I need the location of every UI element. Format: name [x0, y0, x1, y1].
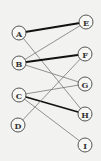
- node-c: C: [12, 88, 26, 102]
- node-label: E: [83, 18, 89, 28]
- node-f: F: [78, 47, 92, 61]
- node-label: H: [81, 110, 89, 120]
- edge-a-e: [19, 22, 86, 33]
- node-g: G: [78, 77, 92, 91]
- edge-b-g: [19, 63, 85, 84]
- node-label: G: [82, 80, 89, 90]
- node-label: A: [15, 29, 23, 39]
- node-a: A: [12, 26, 26, 40]
- edge-b-f: [19, 54, 85, 63]
- node-label: B: [16, 59, 23, 69]
- nodes-group: ABCDEFGHI: [11, 15, 93, 152]
- node-d: D: [11, 118, 25, 132]
- node-b: B: [12, 56, 26, 70]
- node-e: E: [79, 15, 93, 29]
- node-i: I: [78, 138, 92, 152]
- bipartite-graph: ABCDEFGHI: [0, 0, 101, 161]
- node-h: H: [78, 107, 92, 121]
- node-label: I: [83, 141, 87, 151]
- node-label: F: [82, 50, 88, 60]
- edges-group: [18, 22, 86, 145]
- edge-c-h: [19, 95, 85, 114]
- node-label: D: [15, 121, 22, 131]
- edge-c-i: [19, 95, 85, 145]
- node-label: C: [16, 91, 22, 101]
- edge-d-f: [18, 54, 85, 125]
